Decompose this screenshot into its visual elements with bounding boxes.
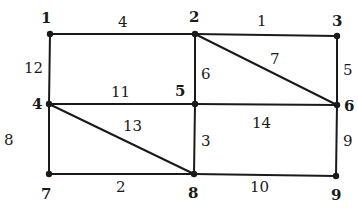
- edge-weight-label: 10: [250, 178, 269, 196]
- edge-6-9: [336, 105, 337, 176]
- node-label: 2: [189, 8, 199, 26]
- node-8: [191, 171, 197, 177]
- weighted-graph: 4112675111413839210123456789: [0, 0, 358, 208]
- node-label: 9: [331, 186, 341, 204]
- node-6: [334, 102, 340, 108]
- edge-weight-label: 12: [24, 59, 43, 77]
- edge-weight-label: 1: [257, 12, 267, 30]
- node-label: 4: [32, 95, 42, 113]
- edge-weight-label: 14: [252, 114, 271, 132]
- edge-weight-label: 4: [118, 13, 128, 31]
- node-5: [192, 101, 198, 107]
- edge-weight-label: 11: [111, 83, 130, 101]
- node-label: 6: [344, 97, 354, 115]
- edge-5-6: [195, 104, 337, 105]
- edge-weight-label: 13: [123, 117, 142, 135]
- node-2: [192, 31, 198, 37]
- edge-weight-label: 6: [201, 65, 211, 83]
- edge-weight-label: 7: [270, 50, 280, 68]
- node-label: 7: [41, 185, 51, 203]
- node-label: 1: [41, 9, 51, 27]
- edge-weight-label: 5: [343, 61, 353, 79]
- edge-weight-label: 3: [201, 132, 211, 150]
- node-3: [334, 33, 340, 39]
- edge-weight-label: 8: [4, 131, 14, 149]
- edge-weight-label: 2: [116, 178, 126, 196]
- node-label: 8: [188, 184, 198, 202]
- edge-2-6: [195, 34, 337, 105]
- edge-8-9: [194, 174, 336, 176]
- node-4: [46, 101, 52, 107]
- node-7: [46, 171, 52, 177]
- edge-5-8: [194, 104, 195, 174]
- edge-1-4: [49, 34, 50, 104]
- edge-2-3: [195, 34, 337, 36]
- node-label: 5: [175, 82, 185, 100]
- node-label: 3: [332, 12, 342, 30]
- node-9: [333, 173, 339, 179]
- edge-4-8: [49, 104, 194, 174]
- edge-weight-label: 9: [343, 132, 353, 150]
- node-1: [47, 31, 53, 37]
